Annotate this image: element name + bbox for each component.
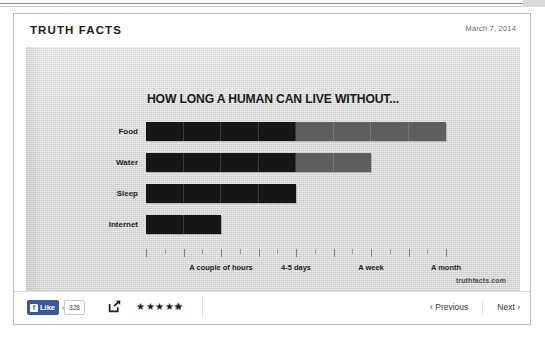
page-top-rule xyxy=(0,3,545,4)
comic-card: TRUTH FACTS March 7, 2014 HOW LONG A HUM… xyxy=(13,13,531,325)
chevron-right-icon: › xyxy=(517,302,520,312)
share-button[interactable] xyxy=(106,298,123,315)
chart-x-axis: A couple of hours 4-5 days A week A mont… xyxy=(26,47,520,292)
footer-divider xyxy=(202,296,203,318)
facebook-like-button[interactable]: f Like xyxy=(27,300,59,315)
nav-divider xyxy=(482,299,483,315)
rating-star-half: ✩ xyxy=(174,301,183,312)
page-top-tab xyxy=(523,0,545,7)
pagination-nav: ‹ Previous Next › xyxy=(430,299,520,315)
next-button[interactable]: Next › xyxy=(497,302,520,312)
publish-date: March 7, 2014 xyxy=(465,24,516,33)
card-footer: f Like 328 ★★★★★✩ ‹ Previous Next › xyxy=(14,291,530,324)
facebook-like-label: Like xyxy=(40,303,55,312)
chart-panel: HOW LONG A HUMAN CAN LIVE WITHOUT... Foo… xyxy=(26,47,520,292)
page-top-rule-secondary xyxy=(0,6,545,7)
x-tick-label: A month xyxy=(431,263,461,272)
previous-label: Previous xyxy=(435,302,468,312)
facebook-like-widget[interactable]: f Like 328 xyxy=(27,300,85,315)
share-icon xyxy=(108,300,121,313)
x-tick-label: A week xyxy=(358,263,384,272)
rating-stars[interactable]: ★★★★★✩ xyxy=(136,299,182,314)
x-tick-label: 4-5 days xyxy=(281,263,311,272)
chevron-left-icon: ‹ xyxy=(430,302,433,312)
page-title: TRUTH FACTS xyxy=(30,24,122,36)
facebook-f-icon: f xyxy=(30,304,38,312)
previous-button[interactable]: ‹ Previous xyxy=(430,302,468,312)
next-label: Next xyxy=(497,302,514,312)
card-header: TRUTH FACTS March 7, 2014 xyxy=(14,14,530,47)
watermark: truthfacts.com xyxy=(456,277,506,284)
chart-plot-area: Food Water xyxy=(26,47,520,292)
x-tick-label: A couple of hours xyxy=(189,263,252,272)
facebook-like-count: 328 xyxy=(64,300,85,315)
